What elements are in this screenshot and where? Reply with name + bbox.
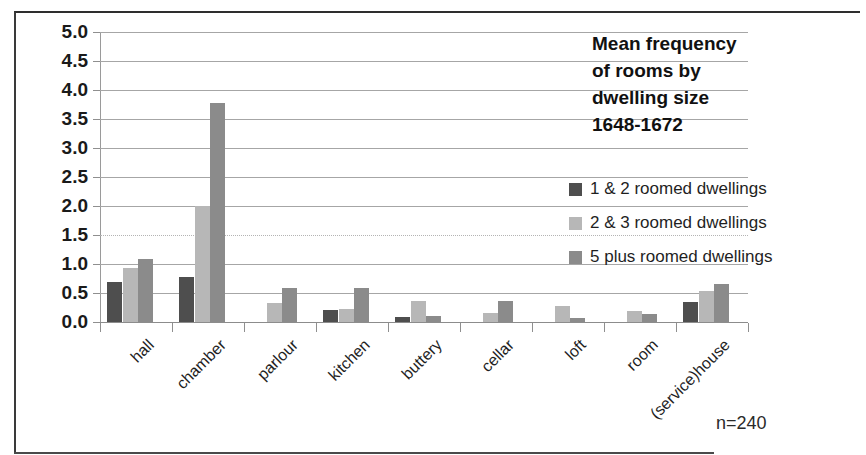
chart-title-line: dwelling size [592, 84, 854, 111]
x-axis-tick [748, 323, 749, 332]
bar[interactable] [354, 288, 369, 322]
y-axis-tick [93, 264, 100, 265]
y-axis-tick [93, 32, 100, 33]
bar[interactable] [411, 301, 426, 322]
y-axis-label: 0.0 [62, 311, 88, 333]
x-axis-tick [316, 323, 317, 332]
bar-group [179, 32, 225, 322]
sample-size-note: n=240 [716, 413, 767, 434]
chart-title-line: of rooms by [592, 57, 854, 84]
bar[interactable] [642, 314, 657, 322]
y-axis-label: 4.5 [62, 50, 88, 72]
bar-group [107, 32, 153, 322]
y-axis-label: 0.5 [62, 282, 88, 304]
bar[interactable] [426, 316, 441, 322]
y-axis-label: 3.0 [62, 137, 88, 159]
y-axis-label: 2.5 [62, 166, 88, 188]
gridline [100, 322, 748, 323]
bar[interactable] [570, 318, 585, 322]
bar-group [395, 32, 441, 322]
x-axis-tick [532, 323, 533, 332]
y-axis-tick [93, 235, 100, 236]
y-axis-label: 1.5 [62, 224, 88, 246]
y-axis-label: 3.5 [62, 108, 88, 130]
bar[interactable] [323, 310, 338, 322]
page-border-bottom [14, 452, 714, 454]
legend-label: 5 plus roomed dwellings [590, 247, 772, 267]
x-axis-tick [460, 323, 461, 332]
x-axis-tick [172, 323, 173, 332]
bar[interactable] [107, 282, 122, 322]
bar[interactable] [179, 277, 194, 322]
legend-item[interactable]: 1 & 2 roomed dwellings [569, 172, 859, 206]
bar-group [467, 32, 513, 322]
bar[interactable] [699, 291, 714, 322]
chart-legend: 1 & 2 roomed dwellings2 & 3 roomed dwell… [569, 172, 859, 274]
y-axis-label: 4.0 [62, 79, 88, 101]
y-axis-label: 2.0 [62, 195, 88, 217]
legend-item[interactable]: 5 plus roomed dwellings [569, 240, 859, 274]
y-axis-tick [93, 90, 100, 91]
bar[interactable] [138, 259, 153, 322]
chart-title-line: 1648-1672 [592, 111, 854, 138]
bar[interactable] [627, 311, 642, 322]
bar[interactable] [123, 268, 138, 322]
legend-label: 2 & 3 roomed dwellings [590, 213, 767, 233]
bar[interactable] [210, 103, 225, 322]
legend-item[interactable]: 2 & 3 roomed dwellings [569, 206, 859, 240]
y-axis-label: 1.0 [62, 253, 88, 275]
y-axis-tick [93, 322, 100, 323]
chart-title-line: Mean frequency [592, 30, 854, 57]
y-axis-tick [93, 177, 100, 178]
bar-group [251, 32, 297, 322]
bar[interactable] [267, 303, 282, 322]
bar[interactable] [714, 284, 729, 322]
legend-swatch-icon [569, 183, 582, 196]
legend-swatch-icon [569, 217, 582, 230]
chart-title: Mean frequencyof rooms bydwelling size16… [592, 30, 854, 138]
legend-label: 1 & 2 roomed dwellings [590, 179, 767, 199]
bar[interactable] [195, 206, 210, 322]
chart-page: 0.00.51.01.52.02.53.03.54.04.55.0 hallch… [0, 0, 866, 455]
legend-swatch-icon [569, 251, 582, 264]
y-axis-tick [93, 206, 100, 207]
y-axis-tick [93, 293, 100, 294]
x-axis-tick [604, 323, 605, 332]
bar[interactable] [483, 313, 498, 322]
x-axis-tick [676, 323, 677, 332]
bar[interactable] [498, 301, 513, 322]
bar-group [323, 32, 369, 322]
x-axis-tick [100, 323, 101, 332]
bar[interactable] [395, 317, 410, 322]
y-axis-label: 5.0 [62, 21, 88, 43]
bar[interactable] [339, 309, 354, 322]
y-axis-tick [93, 119, 100, 120]
y-axis-tick [93, 148, 100, 149]
y-axis-tick [93, 61, 100, 62]
bar[interactable] [282, 288, 297, 322]
bar[interactable] [683, 302, 698, 322]
x-axis-tick [244, 323, 245, 332]
bar[interactable] [555, 306, 570, 322]
x-axis-tick [388, 323, 389, 332]
